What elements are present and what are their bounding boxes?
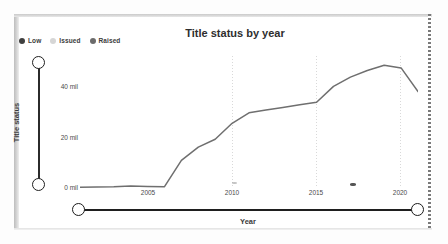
chart-screenshot: Low Issued Raised Title status by year T… [0, 0, 448, 244]
x-axis-ticks: 2005 2010 2015 2020 [80, 189, 418, 201]
x-tick-2010: 2010 [225, 189, 239, 196]
y-tick-40mil: 40 mil [44, 83, 78, 90]
horizontal-slider-track[interactable] [79, 209, 417, 211]
scan-speck [350, 183, 356, 186]
legend-dot-raised [90, 38, 96, 44]
line-series-low [80, 56, 418, 188]
x-tick-2020: 2020 [393, 189, 407, 196]
y-tick-0mil: 0 mil [44, 184, 78, 191]
x-tick-2005: 2005 [141, 189, 155, 196]
legend-item-low[interactable]: Low [19, 37, 41, 44]
legend-dot-issued [50, 38, 56, 44]
horizontal-slider-handle-max[interactable] [411, 203, 424, 216]
y-axis-ticks: 40 mil 20 mil 0 mil [40, 56, 78, 188]
x-tick-2015: 2015 [309, 189, 323, 196]
chart-title: Title status by year [150, 27, 320, 39]
scan-speck [232, 182, 237, 184]
legend-dot-low [19, 38, 25, 44]
y-axis-title: Title status [12, 94, 21, 152]
panel-bottom-border [14, 228, 432, 230]
legend-label-raised: Raised [99, 37, 121, 44]
chart-legend: Low Issued Raised [19, 37, 120, 44]
legend-label-issued: Issued [59, 37, 80, 44]
panel-right-border [428, 14, 431, 230]
horizontal-slider-handle-min[interactable] [72, 203, 85, 216]
legend-item-issued[interactable]: Issued [50, 37, 80, 44]
panel-top-border [14, 14, 432, 17]
y-tick-20mil: 20 mil [44, 134, 78, 141]
x-axis-title: Year [72, 217, 424, 226]
plot-area [80, 56, 418, 188]
legend-label-low: Low [28, 37, 41, 44]
legend-item-raised[interactable]: Raised [90, 37, 121, 44]
